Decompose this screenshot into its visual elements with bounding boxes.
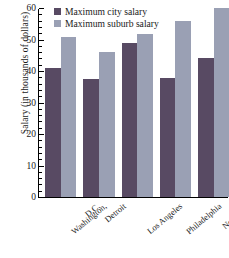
bar-city-salary — [198, 58, 214, 197]
bar-suburb-salary — [99, 52, 115, 197]
y-axis-tick-label: 30 — [27, 98, 37, 108]
y-axis-tick-label: 60 — [27, 3, 37, 13]
bar-group — [122, 9, 153, 197]
legend-swatch-icon — [54, 20, 61, 27]
y-axis-major-tick: 0 — [39, 197, 44, 198]
legend-swatch-icon — [54, 8, 61, 15]
bar-city-salary — [122, 43, 138, 196]
legend-item-label: Maximum suburb salary — [65, 18, 159, 29]
y-axis-tick-label: 40 — [27, 66, 37, 76]
bar-suburb-salary — [175, 21, 191, 197]
legend-item: Maximum suburb salary — [54, 18, 159, 29]
y-axis-tick-label: 20 — [27, 129, 37, 139]
bar-chart-figure: Salary (in thousands of dollars) 0102030… — [0, 0, 229, 258]
x-axis-tick-label: Detroit — [103, 201, 128, 224]
y-axis-tick-label: 50 — [27, 35, 37, 45]
bar-group — [160, 9, 191, 197]
bar-city-salary — [83, 79, 99, 197]
bar-group — [45, 9, 76, 197]
bar-groups — [39, 9, 228, 197]
bar-suburb-salary — [137, 34, 153, 196]
x-axis-tick-label: Philadelphia — [184, 201, 223, 236]
bar-group — [198, 9, 229, 197]
legend-item-label: Maximum city salary — [65, 6, 147, 17]
y-axis-tick-label: 10 — [27, 161, 37, 171]
bar-city-salary — [160, 78, 176, 197]
x-axis-line — [38, 197, 228, 198]
chart-legend: Maximum city salaryMaximum suburb salary — [54, 6, 159, 29]
legend-item: Maximum city salary — [54, 6, 159, 17]
y-axis-tick-label: 0 — [31, 192, 36, 202]
x-axis-tick-label: Los Angeles — [145, 201, 184, 236]
bar-city-salary — [45, 68, 61, 197]
plot-area: 0102030405060 — [38, 9, 228, 198]
bar-suburb-salary — [61, 37, 77, 197]
bar-suburb-salary — [214, 8, 229, 197]
bar-group — [83, 9, 114, 197]
